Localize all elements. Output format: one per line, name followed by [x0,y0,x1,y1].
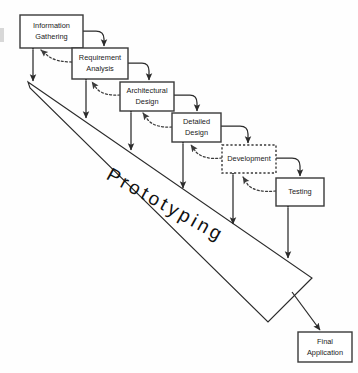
prototyping-model-diagram: Prototyping [0,0,358,373]
detailed-design-label-2: Design [185,128,208,137]
stage-box-development[interactable]: Development [222,145,276,173]
requirement-analysis-label-2: Analysis [86,64,114,73]
information-gathering-label-1: Information [33,21,70,30]
stage-box-requirement-analysis[interactable]: Requirement Analysis [72,48,128,79]
final-application-label-2: Application [307,348,343,357]
development-label: Development [227,154,271,163]
stage-box-testing[interactable]: Testing [276,178,324,206]
architectural-design-label-2: Design [135,97,158,106]
detailed-design-label-1: Detailed [183,117,210,126]
stage-box-information-gathering[interactable]: Information Gathering [20,15,83,48]
requirement-analysis-label-1: Requirement [79,53,121,62]
information-gathering-label-2: Gathering [35,32,67,41]
edge-artifact-mark [0,28,4,42]
architectural-design-label-1: Architectural [126,86,167,95]
stage-box-detailed-design[interactable]: Detailed Design [172,113,221,142]
testing-label: Testing [288,187,311,196]
final-application-label-1: Final [317,337,333,346]
stage-box-final-application[interactable]: Final Application [298,332,352,362]
diagram-canvas: Prototyping [0,0,358,373]
stage-box-architectural-design[interactable]: Architectural Design [120,82,174,111]
